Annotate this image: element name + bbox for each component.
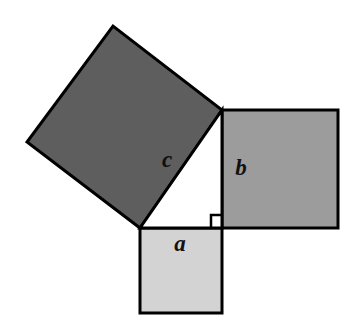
pythagorean-diagram-container: • • c b a (0, 0, 353, 327)
label-c: c (162, 147, 172, 172)
label-b: b (235, 155, 247, 180)
label-a: a (174, 231, 186, 256)
pythagorean-theorem-figure: c b a (0, 0, 353, 327)
